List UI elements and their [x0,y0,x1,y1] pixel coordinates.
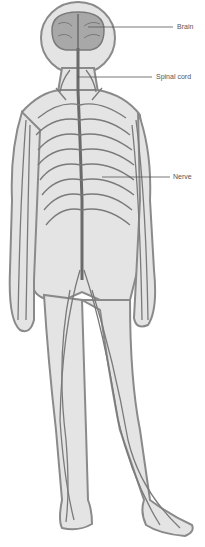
label-spinal-cord: Spinal cord [156,73,191,81]
label-brain: Brain [177,23,193,31]
label-nerve: Nerve [173,173,192,181]
body-silhouette [10,2,193,536]
nervous-system-figure [0,0,205,547]
brain [52,12,104,50]
